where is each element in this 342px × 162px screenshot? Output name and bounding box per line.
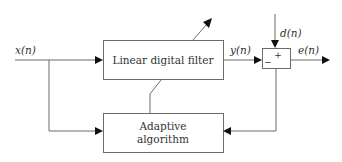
- input-arrowhead: [95, 56, 103, 64]
- desired-signal-label: d(n): [280, 27, 302, 39]
- error-arrowhead: [322, 56, 330, 64]
- plus-sign: +: [274, 50, 282, 60]
- output-signal-label: y(n): [229, 44, 251, 56]
- output-arrowhead: [254, 56, 262, 64]
- summing-junction: + −: [263, 49, 291, 69]
- input-signal-label: x(n): [15, 44, 36, 56]
- minus-sign: −: [264, 57, 272, 67]
- adaptive-label-line2: algorithm: [137, 133, 189, 145]
- input-branch-arrowhead: [95, 127, 103, 135]
- feedback-arrowhead: [223, 127, 231, 135]
- adaptive-algorithm-block: Adaptive algorithm: [104, 114, 224, 153]
- error-signal-label: e(n): [298, 44, 319, 56]
- adjust-wire-lower: [150, 80, 161, 113]
- desired-arrowhead: [271, 40, 279, 48]
- feedback-wire: [229, 69, 276, 131]
- adaptive-filter-diagram: x(n) Linear digital filter Adaptive algo…: [0, 0, 342, 162]
- linear-filter-label: Linear digital filter: [112, 54, 214, 66]
- adaptive-label-line1: Adaptive: [138, 120, 186, 132]
- input-branch-wire: [49, 60, 97, 131]
- adjust-wire-upper: [193, 24, 207, 40]
- linear-filter-block: Linear digital filter: [104, 41, 224, 80]
